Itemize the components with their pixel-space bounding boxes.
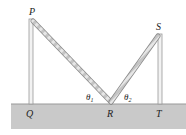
wire-rs-texture (111, 36, 158, 102)
label-s: S (156, 21, 161, 32)
label-theta1: θ1 (86, 92, 93, 103)
label-r: R (106, 108, 113, 119)
label-theta2: θ2 (124, 92, 131, 103)
pole-pq (29, 19, 33, 104)
label-p: P (28, 6, 35, 17)
pole-st (158, 34, 162, 104)
diagram-canvas: P S Q R T θ1 θ2 (0, 0, 186, 135)
label-q: Q (26, 108, 34, 119)
wire-pr-texture (33, 21, 111, 102)
